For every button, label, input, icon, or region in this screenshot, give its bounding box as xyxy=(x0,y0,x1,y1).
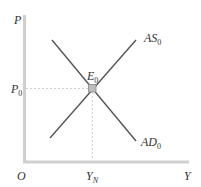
as-sub: 0 xyxy=(157,38,161,47)
equilibrium-label: E0 xyxy=(86,69,98,85)
ad-curve-label: AD0 xyxy=(140,135,161,151)
output-level-sub: N xyxy=(92,176,99,185)
origin-label: O xyxy=(17,169,26,183)
ad-main: AD xyxy=(140,135,157,149)
ad-sub: 0 xyxy=(157,142,161,151)
price-level-label: P0 xyxy=(10,82,22,98)
as-ad-diagram: P P0 E0 AS0 AD0 O YN Y xyxy=(0,0,201,187)
price-level-sub: 0 xyxy=(18,89,22,98)
as-curve-label: AS0 xyxy=(143,31,161,47)
equilibrium-point xyxy=(89,85,97,93)
x-axis-label: Y xyxy=(184,169,192,183)
as-main: AS xyxy=(143,31,157,45)
equilibrium-sub: 0 xyxy=(94,76,98,85)
output-level-label: YN xyxy=(86,169,99,185)
y-axis-label: P xyxy=(13,13,22,27)
